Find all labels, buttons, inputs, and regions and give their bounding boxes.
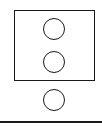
circle-middle (43, 51, 65, 73)
circle-bottom (43, 89, 65, 111)
base-line (0, 121, 102, 123)
circle-top (43, 18, 65, 40)
